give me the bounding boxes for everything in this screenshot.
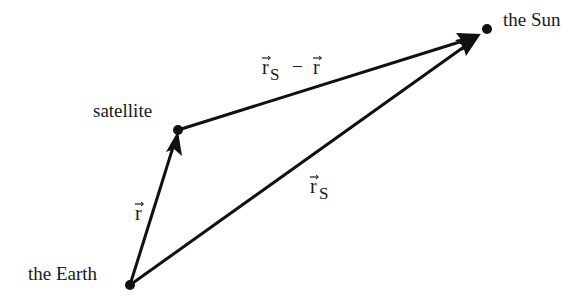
vector-rs-arrow bbox=[130, 35, 480, 285]
satellite-point bbox=[173, 125, 183, 135]
label-rs-minus-r: r S − r bbox=[262, 56, 322, 84]
earth-point bbox=[125, 280, 135, 290]
label-r: r bbox=[135, 202, 144, 224]
rs-minus-r-symbol: r bbox=[262, 56, 269, 78]
vector-rs-minus-r-arrow bbox=[178, 33, 481, 130]
label-sun: the Sun bbox=[503, 9, 561, 30]
rs-minus-r-subscript: S bbox=[270, 65, 279, 84]
rs-minus-r-operator: − bbox=[292, 56, 303, 77]
label-satellite: satellite bbox=[93, 100, 152, 121]
rs-minus-r-symbol2: r bbox=[313, 56, 320, 78]
vector-diagram: the Sun satellite the Earth r S − r r S … bbox=[0, 0, 578, 308]
r-symbol: r bbox=[135, 202, 142, 224]
label-earth: the Earth bbox=[28, 263, 98, 284]
rs-symbol: r bbox=[310, 175, 317, 197]
rs-subscript: S bbox=[319, 184, 328, 203]
label-rs: r S bbox=[310, 175, 328, 203]
sun-point bbox=[482, 24, 492, 34]
